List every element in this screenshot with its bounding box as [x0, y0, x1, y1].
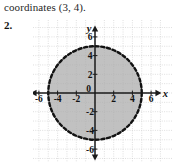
y-tick-label: 6	[88, 32, 93, 42]
y-tick-label: -6	[86, 145, 94, 155]
y-tick-label: -2	[86, 107, 94, 117]
coordinate-graph: -6-4-20246642-2-4-6 xy	[33, 20, 172, 162]
y-axis-arrow-down	[92, 154, 98, 160]
carryover-text: coordinates (3, 4).	[4, 1, 86, 14]
x-tick-label: 6	[149, 94, 154, 104]
x-axis-label: x	[162, 88, 168, 99]
y-tick-label: -4	[86, 126, 94, 136]
problem-number: 2.	[4, 19, 12, 31]
x-tick-label: -4	[54, 94, 62, 104]
y-axis-label: y	[85, 23, 92, 34]
y-tick-label: 2	[88, 70, 93, 80]
x-axis-arrow-right	[155, 90, 161, 96]
worksheet-page: coordinates (3, 4). 2. -6-4-20246642-2-4…	[0, 0, 172, 162]
coordinate-plane-svg: -6-4-20246642-2-4-6 xy	[33, 20, 172, 162]
x-tick-label: 2	[111, 94, 116, 104]
y-axis-arrow-up	[92, 26, 98, 32]
origin-label: 0	[86, 84, 91, 94]
x-tick-label: 4	[130, 94, 135, 104]
y-tick-label: 4	[88, 51, 93, 61]
x-tick-label: -6	[35, 94, 43, 104]
x-tick-label: -2	[72, 94, 80, 104]
